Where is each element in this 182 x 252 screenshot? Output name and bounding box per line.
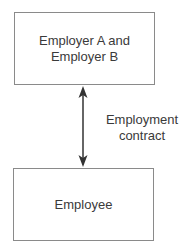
employee-box: Employee <box>13 168 154 241</box>
connector-label-line1: Employment <box>103 112 181 128</box>
employment-contract-label: Employment contract <box>103 112 181 144</box>
employee-label: Employee <box>55 197 113 213</box>
connector-label-line2: contract <box>103 128 181 144</box>
